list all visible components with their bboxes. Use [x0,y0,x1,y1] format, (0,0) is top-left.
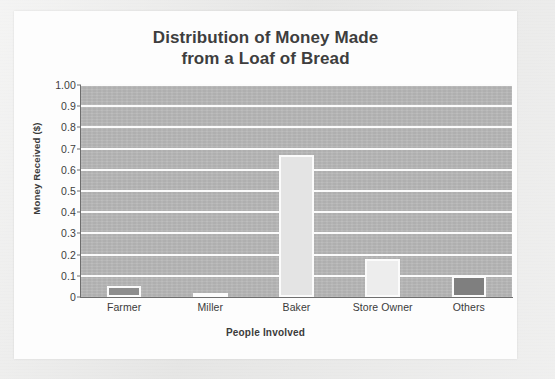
bar [365,259,399,297]
bar [279,155,313,297]
y-axis-tick-label: 0.4 [61,206,76,218]
y-axis-tick-mark [77,191,81,192]
x-axis-tick-label: Store Owner [353,301,413,313]
bar-slot [107,85,141,297]
scanned-page-background: Distribution of Money Made from a Loaf o… [0,0,555,379]
chart-title-line-2: from a Loaf of Bread [14,49,517,70]
y-axis-tick-mark [77,297,81,298]
bar [452,276,486,297]
y-axis-title: Money Received ($) [31,99,42,239]
y-axis-tick-label: 1.00 [55,79,76,91]
y-axis-tick-mark [77,275,81,276]
y-axis-tick-label: 0 [70,291,76,303]
y-axis-tick-label: 0.8 [61,121,76,133]
bar-slot [193,85,227,297]
x-axis-tick-label: Farmer [107,301,141,313]
y-axis-tick-label: 0.2 [61,249,76,261]
bar-slot [452,85,486,297]
x-axis-tick-label: Miller [197,301,223,313]
y-axis-tick-mark [77,106,81,107]
x-axis-tick-label: Baker [283,301,311,313]
x-axis-title: People Involved [14,327,517,338]
y-axis-tick-label: 0.1 [61,270,76,282]
y-axis-tick-mark [77,127,81,128]
y-axis-tick-mark [77,254,81,255]
y-axis-tick-label: 0.3 [61,227,76,239]
y-axis-tick-label: 0.6 [61,164,76,176]
y-axis-tick-label: 0.9 [61,100,76,112]
bar-slot [279,85,313,297]
chart-title-line-1: Distribution of Money Made [14,28,517,49]
x-axis-tick-label: Others [453,301,485,313]
chart-figure-card: Distribution of Money Made from a Loaf o… [14,11,517,359]
bar [107,286,141,297]
y-axis-tick-label: 0.5 [61,185,76,197]
y-axis-tick-mark [77,169,81,170]
bar-slot [365,85,399,297]
y-axis-tick-mark [77,85,81,86]
y-axis-tick-label: 0.7 [61,143,76,155]
x-axis-line [80,297,513,298]
y-axis-tick-mark [77,212,81,213]
plot-area: 1.000.90.80.70.60.50.40.30.20.10 FarmerM… [81,85,512,297]
y-axis-tick-mark [77,233,81,234]
y-axis-tick-mark [77,148,81,149]
chart-title: Distribution of Money Made from a Loaf o… [14,28,517,69]
